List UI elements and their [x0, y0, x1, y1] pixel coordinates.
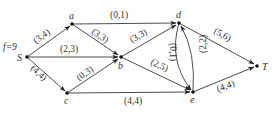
edge-a-d	[72, 23, 176, 24]
edge-label-a-d: (0,1)	[110, 10, 128, 21]
node-s	[25, 55, 29, 59]
node-label-s: S	[17, 52, 22, 63]
node-t	[255, 64, 259, 68]
edge-label-e-t: (4,4)	[215, 78, 236, 95]
node-label-t: T	[262, 61, 269, 72]
node-label-e: e	[190, 94, 195, 105]
node-label-d: d	[176, 9, 182, 20]
edge-label-s-b: (2,3)	[60, 44, 78, 55]
node-label-b: b	[118, 60, 123, 71]
node-b	[119, 55, 123, 59]
flow-network-diagram: S a b c d e T f=9 (3,4) (2,3) (4,4) (0,1…	[0, 0, 275, 120]
edge-label-c-e: (4,4)	[124, 96, 142, 107]
flow-value-label: f=9	[3, 42, 17, 52]
edge-label-s-c: (4,4)	[28, 63, 49, 83]
edge-label-s-a: (3,4)	[31, 27, 52, 47]
edge-label-d-t: (5,6)	[212, 26, 233, 44]
node-a	[70, 22, 74, 26]
node-label-a: a	[69, 10, 74, 21]
edge-e-d	[181, 26, 194, 92]
edge-c-e	[67, 92, 190, 93]
edge-label-d-e: (0,1)	[167, 43, 178, 61]
edge-b-d	[121, 25, 176, 57]
node-label-c: c	[64, 95, 69, 106]
edge-label-e-d: (2,2)	[198, 35, 209, 53]
node-d	[177, 21, 181, 25]
